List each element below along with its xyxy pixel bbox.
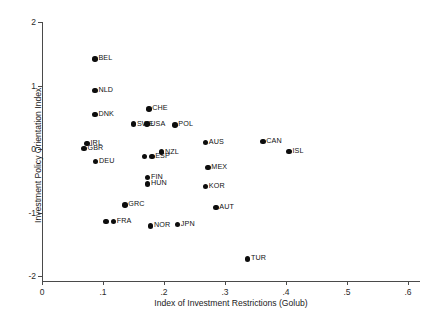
data-point-marker	[148, 223, 154, 229]
data-point-label: NOR	[154, 221, 170, 228]
data-point-label: JPN	[181, 220, 195, 227]
data-point-marker	[213, 205, 219, 211]
data-point-marker	[175, 222, 181, 228]
data-point-marker	[92, 112, 98, 118]
data-point-marker	[203, 140, 209, 146]
data-point-label: GRC	[128, 200, 144, 207]
data-point-label: ESP	[155, 152, 170, 159]
data-point-marker	[245, 256, 251, 262]
data-point-label: ISL	[292, 147, 303, 154]
data-point-marker	[131, 121, 137, 127]
data-point-marker	[93, 159, 99, 165]
data-point-marker	[81, 146, 87, 152]
data-point-marker	[144, 121, 150, 127]
data-point-label: FRA	[117, 217, 132, 224]
data-point-label: KOR	[209, 182, 225, 189]
data-point-label: MEX	[211, 163, 227, 170]
data-point-marker	[92, 56, 98, 62]
plot-area: BELNLDDNKCHESWEUSAPOLIRLGBRAUSCANISLNZLE…	[0, 0, 425, 317]
data-point-marker	[205, 165, 211, 171]
data-point-label: AUS	[209, 138, 224, 145]
data-point-marker	[111, 219, 117, 225]
data-point-marker	[122, 202, 128, 208]
data-point-marker	[172, 122, 178, 128]
data-point-label: CAN	[266, 137, 281, 144]
data-point-marker	[92, 88, 98, 94]
data-point-marker	[103, 219, 109, 225]
data-point-marker	[260, 139, 266, 145]
data-point-marker	[145, 181, 151, 187]
data-point-marker	[142, 154, 148, 160]
data-point-marker	[203, 184, 209, 190]
data-point-label: NLD	[98, 86, 113, 93]
data-point-label: CHE	[152, 104, 167, 111]
data-point-label: POL	[178, 120, 193, 127]
data-point-marker	[149, 154, 155, 160]
data-point-marker	[286, 149, 292, 155]
data-point-label: TUR	[251, 254, 266, 261]
data-point-label: HUN	[151, 179, 167, 186]
data-point-label: DNK	[98, 110, 113, 117]
scatter-plot-figure: 0.1.2.3.4.5.6 210-1-2 Index of Investmen…	[0, 0, 425, 317]
data-point-label: DEU	[99, 157, 114, 164]
data-point-label: BEL	[98, 54, 112, 61]
data-point-label: AUT	[219, 203, 234, 210]
data-point-marker	[146, 106, 152, 112]
data-point-marker	[145, 175, 151, 181]
data-point-label: GBR	[87, 144, 103, 151]
data-point-label: USA	[150, 120, 165, 127]
